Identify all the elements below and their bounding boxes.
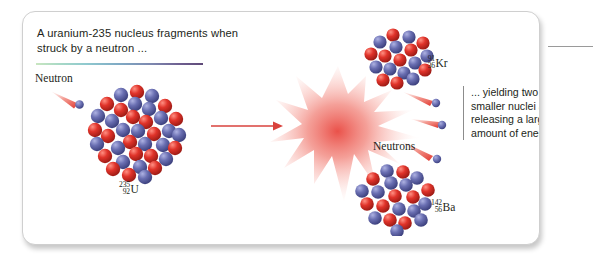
headline-underline bbox=[36, 63, 203, 65]
caption-text: ... yielding two smaller nuclei and rele… bbox=[463, 86, 540, 140]
uranium-symbol: U bbox=[131, 183, 139, 195]
figure-canvas: A uranium-235 nucleus fragments when str… bbox=[0, 0, 593, 266]
neutron-label: Neutron bbox=[35, 72, 73, 84]
ejected-neutron-1-icon bbox=[403, 90, 445, 112]
headline-text: A uranium-235 nucleus fragments when str… bbox=[37, 26, 252, 55]
barium-nucleus-illustration bbox=[353, 164, 439, 236]
krypton-nuclide-label: 91 36 Kr bbox=[422, 58, 448, 70]
figure-card: A uranium-235 nucleus fragments when str… bbox=[22, 11, 540, 245]
ejected-neutron-2-icon bbox=[411, 112, 451, 134]
edge-rule bbox=[548, 46, 593, 47]
uranium-nucleus-illustration bbox=[85, 82, 189, 186]
uranium-nuclide-label: 235 92 U bbox=[117, 184, 139, 196]
barium-nuclide-label: 142 56 Ba bbox=[429, 202, 455, 214]
krypton-symbol: Kr bbox=[436, 57, 448, 69]
neutrons-label: Neutrons bbox=[373, 140, 415, 152]
barium-symbol: Ba bbox=[443, 201, 456, 213]
